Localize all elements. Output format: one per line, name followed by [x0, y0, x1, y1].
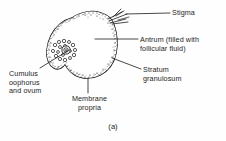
leader-stratum-granulosum	[112, 58, 141, 69]
follicle-figure: Stigma Antrum (filled with follicular fl…	[0, 0, 226, 141]
label-stigma: Stigma	[172, 9, 195, 18]
label-cumulus-oophorus: Cumulus oophorus and ovum	[9, 70, 64, 96]
label-stratum-granulosum: Stratum granulosum	[143, 66, 213, 83]
label-antrum: Antrum (filled with follicular fluid)	[140, 36, 224, 53]
figure-caption: (a)	[0, 122, 226, 131]
label-membrane-propria: Membrane propria	[62, 95, 117, 112]
leader-stigma	[126, 13, 170, 14]
